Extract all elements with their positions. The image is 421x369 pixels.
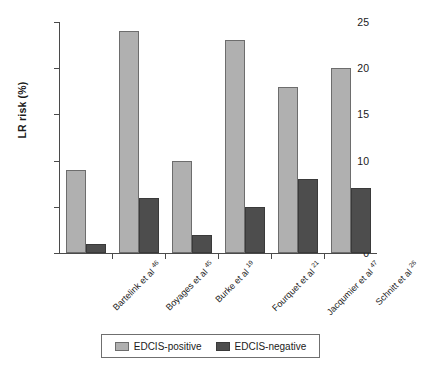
y-axis-title: LR risk (%) — [16, 50, 28, 170]
chart-legend: EDCIS-positiveEDCIS-negative — [101, 334, 320, 358]
bar-positive — [119, 31, 139, 253]
category-reference: 45 — [203, 259, 213, 269]
legend-swatch-positive — [115, 342, 129, 351]
x-tick-mark — [112, 254, 113, 259]
y-tick-mark — [54, 161, 59, 162]
legend-label: EDCIS-negative — [235, 341, 307, 352]
category-reference: 26 — [407, 259, 417, 269]
legend-label: EDCIS-positive — [134, 341, 202, 352]
x-category-label: Jacqumier et al 47 — [325, 260, 382, 317]
y-axis-line — [59, 22, 60, 254]
y-tick-mark — [54, 207, 59, 208]
category-reference: 21 — [310, 259, 320, 269]
bar-positive — [66, 170, 86, 253]
legend-swatch-negative — [216, 342, 230, 351]
x-tick-mark — [324, 254, 325, 259]
y-tick-label: 25 — [329, 17, 369, 28]
category-reference: 47 — [368, 259, 378, 269]
bar-positive — [331, 68, 351, 253]
bar-negative — [245, 207, 265, 253]
x-category-label: Burke et al 19 — [213, 260, 257, 304]
plot-area: 0510152025 — [59, 22, 377, 253]
bar-positive — [278, 87, 298, 253]
x-tick-mark — [165, 254, 166, 259]
bar-negative — [192, 235, 212, 253]
legend-entry: EDCIS-negative — [216, 341, 307, 352]
category-reference: 46 — [150, 259, 160, 269]
x-category-label: Boyages et al 45 — [164, 260, 217, 313]
category-reference: 19 — [244, 259, 254, 269]
bar-positive — [225, 40, 245, 253]
bar-negative — [86, 244, 106, 253]
bar-negative — [298, 179, 318, 253]
y-tick-mark — [54, 22, 59, 23]
legend-entry: EDCIS-positive — [115, 341, 202, 352]
bar-negative — [351, 188, 371, 253]
y-tick-mark — [54, 253, 59, 254]
x-tick-mark — [271, 254, 272, 259]
x-category-label: Bartelink et al 46 — [111, 260, 164, 313]
x-category-label: Fourquet et al 21 — [270, 260, 323, 313]
y-tick-mark — [54, 68, 59, 69]
bar-positive — [172, 161, 192, 253]
bar-negative — [139, 198, 159, 253]
x-tick-mark — [218, 254, 219, 259]
y-tick-mark — [54, 114, 59, 115]
